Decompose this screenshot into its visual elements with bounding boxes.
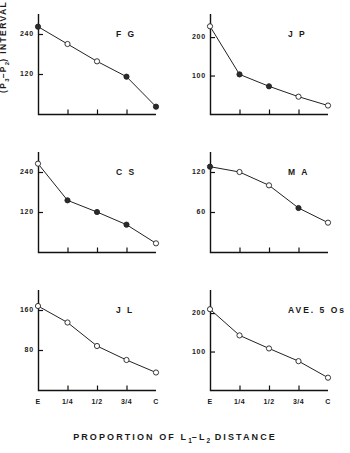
data-point-marker	[94, 343, 99, 348]
data-point-marker	[237, 72, 242, 77]
chart-panel: M A12060	[210, 152, 338, 262]
data-point-marker	[65, 320, 70, 325]
data-point-marker	[237, 333, 242, 338]
data-point-marker	[266, 183, 271, 188]
data-point-marker	[35, 24, 40, 29]
y-axis-label-sub-p3: 3	[4, 78, 10, 81]
y-axis-label-prefix: (P	[0, 82, 8, 93]
data-series-line	[38, 306, 156, 373]
x-axis-tick-label: C	[316, 398, 340, 405]
x-axis-tick-label: C	[144, 398, 168, 405]
y-axis-tick-label: 240	[6, 168, 34, 175]
data-point-marker	[325, 103, 330, 108]
panel-title: F G	[116, 29, 136, 39]
y-axis-tick-label: 120	[6, 70, 34, 77]
panel-title: J L	[116, 305, 134, 315]
x-axis-tick-label: 1/2	[85, 398, 109, 405]
data-point-marker	[35, 161, 40, 166]
y-axis-tick-label: 100	[178, 348, 206, 355]
x-axis-label-post: DISTANCE	[210, 432, 277, 442]
figure-multi-panel-line-charts: (P3–P2) INTERVAL (MSEC) PROPORTION OF L1…	[0, 0, 350, 453]
x-axis-tick-label: 1/4	[56, 398, 80, 405]
y-axis-tick-label: 80	[6, 346, 34, 353]
y-axis-tick-label: 100	[178, 72, 206, 79]
axis-lines	[39, 290, 157, 391]
y-axis-tick-label: 120	[6, 208, 34, 215]
x-axis-tick-label: E	[26, 398, 50, 405]
data-point-marker	[65, 198, 70, 203]
data-series-line	[210, 167, 328, 223]
y-axis-label-text: INTERVAL (MSEC)	[0, 0, 8, 54]
chart-panel: J P200100	[210, 14, 338, 124]
y-axis-tick-label: 240	[6, 30, 34, 37]
x-axis-label-mid: –L	[192, 432, 207, 442]
plot-area	[38, 14, 166, 124]
y-axis-label-suffix: )	[0, 58, 8, 62]
plot-area	[38, 290, 166, 400]
data-point-marker	[296, 94, 301, 99]
data-point-marker	[124, 222, 129, 227]
panel-title: J P	[288, 29, 307, 39]
data-point-marker	[207, 164, 212, 169]
data-point-marker	[207, 24, 212, 29]
data-point-marker	[266, 346, 271, 351]
chart-panel: C S240120	[38, 152, 166, 262]
data-point-marker	[153, 241, 158, 246]
chart-panel: F G240120	[38, 14, 166, 124]
data-point-marker	[153, 104, 158, 109]
chart-panel: J L16080E1/41/23/4C	[38, 290, 166, 400]
data-point-marker	[296, 205, 301, 210]
y-axis-tick-label: 200	[178, 33, 206, 40]
panel-title: M A	[288, 167, 309, 177]
axis-lines	[39, 152, 157, 253]
y-axis-tick-label: 60	[178, 208, 206, 215]
plot-area	[210, 152, 338, 262]
panel-title: C S	[116, 167, 136, 177]
x-axis-label-pre: PROPORTION OF L	[73, 432, 188, 442]
x-axis-tick-label: E	[198, 398, 222, 405]
x-axis-tick-label: 3/4	[115, 398, 139, 405]
data-series-line	[210, 26, 328, 105]
data-series-line	[38, 164, 156, 244]
axis-lines	[211, 14, 329, 115]
y-axis-tick-label: 120	[178, 168, 206, 175]
plot-area	[38, 152, 166, 262]
data-point-marker	[237, 169, 242, 174]
y-axis-label-sub-p2: 2	[4, 62, 10, 65]
data-point-marker	[94, 59, 99, 64]
data-point-marker	[207, 307, 212, 312]
plot-area	[210, 14, 338, 124]
x-axis-tick-label: 3/4	[287, 398, 311, 405]
data-point-marker	[35, 303, 40, 308]
data-point-marker	[124, 74, 129, 79]
data-point-marker	[124, 357, 129, 362]
data-point-marker	[266, 84, 271, 89]
y-axis-label: (P3–P2) INTERVAL (MSEC)	[0, 0, 16, 95]
chart-panel: AVE. 5 Os200100E1/41/23/4C	[210, 290, 338, 400]
data-series-line	[210, 309, 328, 377]
axis-lines	[211, 152, 329, 253]
y-axis-tick-label: 200	[178, 309, 206, 316]
panel-title: AVE. 5 Os	[288, 305, 346, 315]
y-axis-tick-label: 160	[6, 306, 34, 313]
data-point-marker	[325, 220, 330, 225]
data-series-line	[38, 27, 156, 107]
data-point-marker	[94, 209, 99, 214]
data-point-marker	[65, 41, 70, 46]
data-point-marker	[153, 370, 158, 375]
data-point-marker	[325, 375, 330, 380]
x-axis-label: PROPORTION OF L1–L2 DISTANCE	[0, 432, 350, 444]
x-axis-tick-label: 1/2	[257, 398, 281, 405]
data-point-marker	[296, 359, 301, 364]
x-axis-tick-label: 1/4	[228, 398, 252, 405]
